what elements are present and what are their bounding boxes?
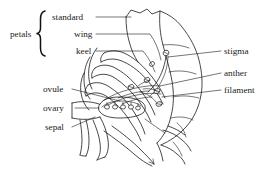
sepal-lobe-1	[100, 117, 108, 157]
ovule-shape	[129, 105, 134, 109]
sepal-lobe-3-tip	[80, 155, 86, 156]
leader-stigma	[168, 51, 221, 57]
label-anther: anther	[224, 68, 247, 78]
sepal-calyx-upper	[72, 102, 99, 104]
label-wing: wing	[74, 29, 93, 39]
brace-shape	[37, 11, 45, 56]
anther-shape	[149, 61, 156, 68]
petals-brace	[37, 11, 45, 56]
label-petals: petals	[10, 29, 32, 39]
leader-filament	[162, 90, 221, 97]
sepal-lobe-3-edge	[80, 120, 82, 155]
leader-keel	[96, 51, 155, 72]
standard-petal-wave-4	[171, 117, 193, 120]
label-ovule: ovule	[43, 84, 63, 94]
ovule-shape	[121, 105, 126, 109]
lower-petal-sweep-2	[104, 131, 152, 166]
standard-petal-outline	[126, 9, 202, 145]
label-standard: standard	[52, 12, 84, 22]
ovule-shape	[113, 105, 118, 109]
label-keel: keel	[76, 46, 92, 56]
ovule-shape	[136, 106, 141, 110]
flower-anatomy-diagram: petals standard wing keel ovule ovary se…	[0, 0, 270, 170]
label-sepal: sepal	[45, 122, 64, 132]
sepal-lobe-3	[86, 120, 89, 156]
ovule-shape	[105, 105, 110, 109]
sepal-lobe-1-edge	[93, 120, 100, 160]
label-filament: filament	[224, 85, 255, 95]
standard-petal-wave-3	[173, 96, 199, 98]
label-stigma: stigma	[224, 46, 249, 56]
label-group: petals standard wing keel ovule ovary se…	[10, 12, 255, 132]
lower-petal-sweep	[112, 126, 154, 164]
style-line	[148, 54, 166, 92]
sepal-calyx-lower	[72, 117, 100, 119]
ovule-group	[105, 102, 141, 110]
leader-anther	[160, 73, 221, 86]
label-ovary: ovary	[43, 103, 64, 113]
diagram-page: petals standard wing keel ovule ovary se…	[0, 0, 270, 170]
standard-petal-wave-1	[163, 45, 189, 48]
standard-petal-wave-2	[169, 71, 196, 74]
receptacle-line	[145, 119, 165, 133]
leader-lines	[72, 17, 221, 127]
